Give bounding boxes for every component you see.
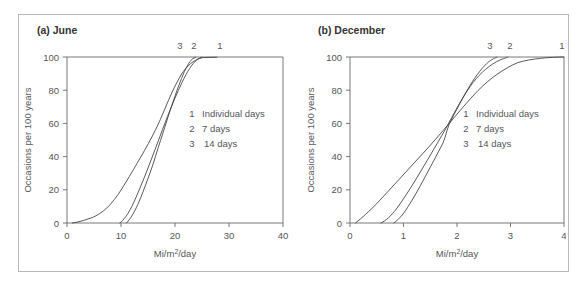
panel-june-ytick-100: 100 xyxy=(43,52,59,63)
panel-december-ylabel: Occasions per 100 years xyxy=(305,87,316,192)
panel-june-curve-label-1: 1 xyxy=(217,40,222,51)
panel-june-xtick-10: 10 xyxy=(116,230,127,241)
panel-december-xlabel: Mi/m2/day xyxy=(436,248,479,260)
panel-june-legend-label-1: Individual days xyxy=(202,108,265,119)
panel-december: (b) December 0 20 40 60 80 100 xyxy=(305,24,567,259)
panel-december-y-ticks: 0 20 40 60 80 100 xyxy=(326,52,350,229)
panel-december-xtick-4: 4 xyxy=(561,230,566,241)
panel-june-ylabel: Occasions per 100 years xyxy=(22,87,33,192)
panel-june-legend-label-2: 7 days xyxy=(202,123,230,134)
panel-june-curve-label-3: 3 xyxy=(177,40,182,51)
panel-december-xtick-3: 3 xyxy=(508,230,513,241)
panel-december-ytick-100: 100 xyxy=(326,52,342,63)
panel-december-ytick-80: 80 xyxy=(331,85,342,96)
panel-june-y-ticks: 0 20 40 60 80 100 xyxy=(43,52,67,229)
panel-june-xtick-20: 20 xyxy=(170,230,181,241)
panel-june-x-ticks: 0 10 20 30 40 xyxy=(64,223,288,241)
panel-december-curve-label-2: 2 xyxy=(507,40,512,51)
panel-june-legend: 1 Individual days 2 7 days 3 14 days xyxy=(189,108,265,149)
panel-december-legend-key-3: 3 xyxy=(463,138,468,149)
figure-container: (a) June 0 20 40 60 80 100 xyxy=(0,0,587,286)
panel-december-curve-individual-days xyxy=(355,57,564,223)
panel-december-xtick-2: 2 xyxy=(454,230,459,241)
panel-december-legend-key-1: 1 xyxy=(463,108,468,119)
panel-december-curve-label-1: 1 xyxy=(559,40,564,51)
panel-december-curve-label-3: 3 xyxy=(487,40,492,51)
panel-june-legend-key-2: 2 xyxy=(189,123,194,134)
panel-december-ytick-0: 0 xyxy=(337,218,342,229)
panel-june-xtick-0: 0 xyxy=(64,230,69,241)
panel-june-ytick-20: 20 xyxy=(48,184,59,195)
panel-december-legend-label-1: Individual days xyxy=(476,108,539,119)
chart-svg: (a) June 0 20 40 60 80 100 xyxy=(0,0,587,286)
panel-december-x-ticks: 0 1 2 3 4 xyxy=(347,223,566,241)
panel-december-legend-label-3: 14 days xyxy=(478,138,512,149)
panel-june-ytick-60: 60 xyxy=(48,118,59,129)
panel-june-curve-label-2: 2 xyxy=(191,40,196,51)
panel-december-xtick-0: 0 xyxy=(347,230,352,241)
panel-june-xtick-30: 30 xyxy=(224,230,235,241)
panel-june-xlabel: Mi/m2/day xyxy=(154,248,197,260)
panel-june-curve-individual-days xyxy=(72,57,217,223)
panel-june-legend-label-3: 14 days xyxy=(204,138,238,149)
panel-december-xtick-1: 1 xyxy=(401,230,406,241)
panel-june-legend-key-3: 3 xyxy=(189,138,194,149)
panel-june-curve-14-days xyxy=(126,57,195,223)
panel-june-ytick-0: 0 xyxy=(54,218,59,229)
panel-december-legend-label-2: 7 days xyxy=(476,123,504,134)
panel-december-legend: 1 Individual days 2 7 days 3 14 days xyxy=(463,108,539,149)
panel-december-title: (b) December xyxy=(318,24,385,36)
panel-june: (a) June 0 20 40 60 80 100 xyxy=(22,24,288,259)
panel-june-legend-key-1: 1 xyxy=(189,108,194,119)
panel-december-ytick-20: 20 xyxy=(331,184,342,195)
panel-december-ytick-40: 40 xyxy=(331,151,342,162)
panel-june-ytick-80: 80 xyxy=(48,85,59,96)
panel-december-legend-key-2: 2 xyxy=(463,123,468,134)
panel-june-title: (a) June xyxy=(37,24,77,36)
panel-december-ytick-60: 60 xyxy=(331,118,342,129)
panel-june-ytick-40: 40 xyxy=(48,151,59,162)
panel-june-xtick-40: 40 xyxy=(278,230,289,241)
